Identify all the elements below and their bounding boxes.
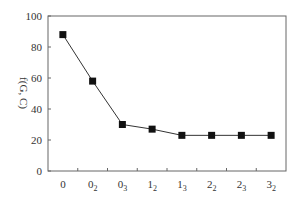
data-series	[59, 31, 274, 139]
x-tick-label: 12	[147, 178, 157, 193]
y-tick-label: 0	[37, 165, 43, 177]
data-point-marker	[238, 132, 245, 139]
series-line	[63, 35, 271, 136]
data-point-marker	[59, 31, 66, 38]
x-tick-label: 02	[88, 178, 98, 193]
data-point-marker	[178, 132, 185, 139]
x-tick-label: 03	[118, 178, 128, 193]
data-point-marker	[208, 132, 215, 139]
y-tick-label: 100	[26, 10, 43, 22]
x-tick-label: 32	[266, 178, 276, 193]
y-axis-title: f(G, C)	[17, 77, 30, 109]
data-point-marker	[89, 78, 96, 85]
y-tick-label: 80	[31, 41, 43, 53]
data-point-marker	[268, 132, 275, 139]
data-point-marker	[149, 126, 156, 133]
plot-frame	[48, 16, 286, 171]
y-tick-label: 40	[31, 103, 43, 115]
x-tick-label: 13	[177, 178, 187, 193]
data-point-marker	[119, 121, 126, 128]
x-axis-ticks: 002031213222332	[60, 168, 276, 193]
x-tick-label: 23	[237, 178, 247, 193]
x-tick-label: 0	[60, 178, 66, 190]
y-tick-label: 60	[31, 72, 43, 84]
y-tick-label: 20	[31, 134, 43, 146]
x-tick-label: 22	[207, 178, 217, 193]
line-chart: 020406080100 002031213222332 f(G, C)	[0, 0, 301, 199]
